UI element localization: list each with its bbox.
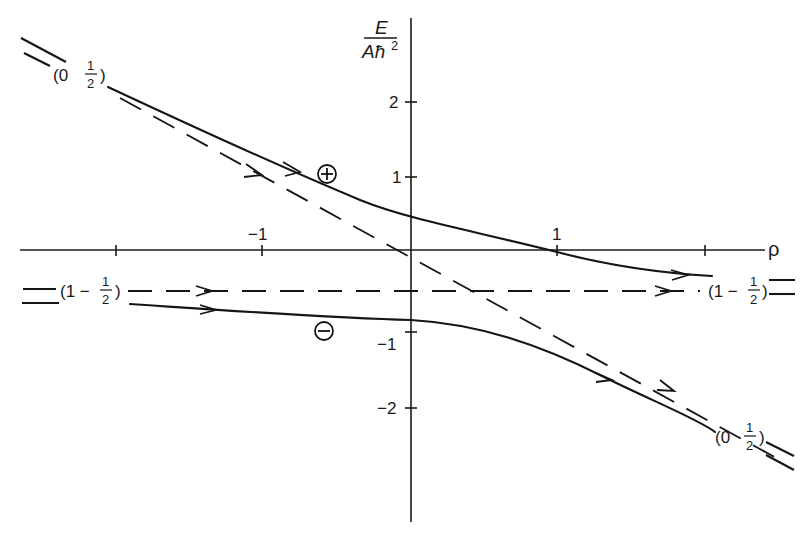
half-numerator: 1 [102,274,109,289]
y-tick-label-plus1: 1 [392,168,401,187]
state-label-close: ) [759,428,765,447]
y-label-exponent: 2 [391,38,398,53]
asymptote-stub-upper-left-solid [21,38,66,62]
arrow-plus-right [671,270,688,280]
half-denominator: 2 [746,438,753,453]
y-tick-label-minus2: −2 [377,399,396,418]
half-denominator: 2 [102,292,109,307]
y-label-denominator: Aħ [361,41,385,62]
flow-arrows [196,162,688,391]
x-tick-label-minus1: −1 [248,225,267,244]
state-label-text: (0 [53,66,68,85]
state-label-0-half-upper-left: (0 1 2 ) [53,58,106,91]
arrow-dashed-lower-right [657,380,674,391]
y-axis-label: E Aħ 2 [361,17,398,62]
half-numerator: 1 [750,274,757,289]
state-label-text: (1 − [60,282,90,301]
half-denominator: 2 [87,76,94,91]
y-label-numerator: E [375,17,388,38]
state-label-text: (0 [715,428,730,447]
half-numerator: 1 [87,58,94,73]
asymptote-0-half-diagonal [120,98,780,460]
asymptote-stub-lower-right-solid [766,455,794,470]
x-axis-label: ρ [768,238,779,260]
state-label-close: ) [762,282,768,301]
tick-labels: −1 1 2 1 −1 −2 [248,93,561,418]
minus-branch-curve [130,304,715,432]
state-label-1-minus-half-left: (1 − 1 2 ) [60,274,121,307]
state-label-close: ) [100,66,106,85]
half-numerator: 1 [746,420,753,435]
plus-branch-curve [108,87,712,276]
energy-level-diagram: −1 1 2 1 −1 −2 E Aħ 2 ρ [0,0,804,545]
asymptote-stub-upper-left-dashed [24,53,50,66]
state-label-text: (1 − [708,282,738,301]
arrow-dashed-upper [244,164,262,177]
y-tick-label-plus2: 2 [389,93,398,112]
half-denominator: 2 [750,292,757,307]
state-label-1-minus-half-right: (1 − 1 2 ) [708,274,768,307]
x-tick-label-plus1: 1 [552,225,561,244]
plus-marker [318,165,336,183]
state-label-close: ) [115,282,121,301]
y-tick-label-minus1: −1 [377,335,396,354]
minus-marker [315,322,333,340]
